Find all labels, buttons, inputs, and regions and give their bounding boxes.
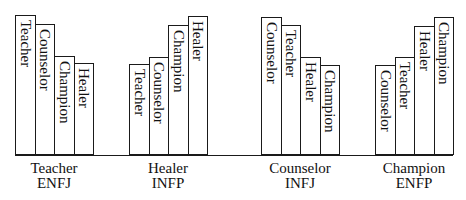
bar-label: Healer [76,68,91,108]
bar-champion: Champion [434,17,455,155]
bar-teacher: Teacher [281,25,302,155]
bar-champion: Champion [168,25,189,155]
bar-label: Counselor [378,70,393,132]
bar-healer: Healer [74,63,95,155]
group-label-type-code: ENFJ [4,176,104,191]
bar-counselor: Counselor [149,57,170,155]
bar-label: Champion [57,61,72,124]
bar-chart: TeacherCounselorChampionHealerTeacherENF… [0,0,466,200]
group-label-name: Teacher [4,161,104,176]
group-label-type-code: INFJ [250,176,350,191]
bar-label: Healer [417,31,432,71]
bar-teacher: Teacher [15,15,36,155]
bar-label: Champion [171,30,186,93]
bar-teacher: Teacher [129,64,150,155]
bar-healer: Healer [300,57,321,155]
bar-counselor: Counselor [261,17,282,155]
bar-healer: Healer [414,26,435,155]
bar-champion: Champion [54,56,75,155]
group-label-type-code: INFP [118,176,218,191]
bar-counselor: Counselor [375,65,396,155]
bar-label: Champion [322,70,337,133]
bar-champion: Champion [320,65,341,155]
bar-teacher: Teacher [395,57,416,155]
bar-label: Teacher [397,62,412,109]
bar-label: Counselor [37,29,52,91]
group-label-name: Champion [364,161,464,176]
bar-label: Counselor [264,22,279,84]
bar-healer: Healer [188,16,209,155]
bar-label: Champion [436,22,451,85]
bar-label: Teacher [18,20,33,67]
group-label-name: Healer [118,161,218,176]
bar-counselor: Counselor [35,24,56,155]
bar-label: Teacher [132,69,147,116]
bar-label: Healer [190,21,205,61]
group-label-name: Counselor [250,161,350,176]
bar-label: Healer [303,62,318,102]
bar-label: Teacher [283,30,298,77]
baseline-axis [15,155,453,156]
bar-label: Counselor [151,62,166,124]
group-label-type-code: ENFP [364,176,464,191]
